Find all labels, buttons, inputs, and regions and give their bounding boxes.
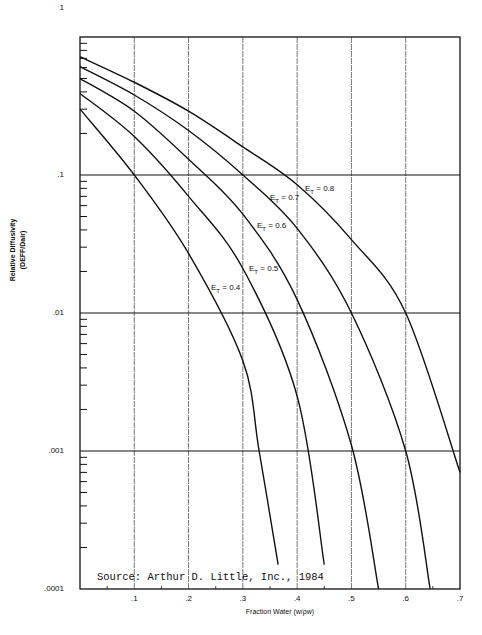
y-axis-title-line2: (DEFF/Dair) bbox=[18, 170, 28, 330]
x-tick-label: .6 bbox=[396, 594, 416, 603]
curve-series-0.4 bbox=[80, 109, 278, 565]
curve-series-0.5 bbox=[80, 93, 324, 564]
y-tick-label: .1 bbox=[34, 170, 64, 179]
minor-ticks bbox=[80, 43, 433, 589]
y-tick-label: 1 bbox=[34, 3, 64, 12]
y-tick-label: .01 bbox=[34, 308, 64, 317]
curve-series-0.7 bbox=[80, 67, 430, 589]
curve-label-0.7: ET = 0.7 bbox=[270, 193, 299, 204]
grid-lines bbox=[80, 37, 460, 589]
x-tick-label: .2 bbox=[179, 594, 199, 603]
y-axis-title: Relative Diffusivity (DEFF/Dair) bbox=[8, 170, 28, 330]
curve-label-0.5: ET = 0.5 bbox=[249, 264, 278, 275]
x-axis-title: Fraction Water (w/ρw) bbox=[200, 608, 360, 615]
y-tick-label: .0001 bbox=[34, 584, 64, 593]
y-tick-label: .001 bbox=[34, 446, 64, 455]
curves bbox=[80, 57, 460, 589]
chart-canvas bbox=[0, 0, 482, 635]
x-tick-label: .5 bbox=[341, 594, 361, 603]
curve-series-0.6 bbox=[80, 79, 379, 589]
y-axis-title-line1: Relative Diffusivity bbox=[8, 170, 18, 330]
curve-label-0.4: ET = 0.4 bbox=[211, 283, 240, 294]
x-tick-label: .3 bbox=[233, 594, 253, 603]
x-tick-label: .7 bbox=[450, 594, 470, 603]
curve-label-0.8: ET = 0.8 bbox=[305, 184, 334, 195]
source-annotation: Source: Arthur D. Little, Inc., 1984 bbox=[97, 571, 324, 583]
x-tick-label: .1 bbox=[124, 594, 144, 603]
x-tick-label: .4 bbox=[287, 594, 307, 603]
curve-label-0.6: ET = 0.6 bbox=[257, 221, 286, 232]
